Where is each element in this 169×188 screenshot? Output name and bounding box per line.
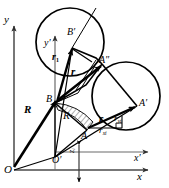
global-axes xyxy=(14,26,148,170)
ray-through-Bprime xyxy=(72,8,96,48)
link-Adoubleprime-to-Aprime xyxy=(102,64,137,106)
vector-R-bold-label: R xyxy=(24,104,31,115)
component-ryi-base: r xyxy=(114,113,118,123)
vector-r1-bold-label: r1 xyxy=(52,52,59,62)
point-B-prime-label: B′ xyxy=(67,27,75,37)
vector-r-lower-bold-label: r xyxy=(99,113,103,124)
point-A-label: A xyxy=(81,131,87,141)
component-rxi-subscript: xi xyxy=(103,130,107,136)
vector-r-upper-bold-label: r xyxy=(71,66,75,77)
offset-zi-base: z xyxy=(67,150,76,153)
x-axis-label: x xyxy=(137,171,142,182)
vector-R-bold-arrow xyxy=(14,101,56,167)
component-ryi-subscript: yi xyxy=(118,118,122,124)
offset-zi-label: zi xyxy=(68,148,76,153)
x-prime-axis-label: x′ xyxy=(134,153,141,163)
point-B-label: B xyxy=(46,94,52,104)
component-rxi-base: r xyxy=(99,125,103,135)
component-rxi-label: rxi xyxy=(99,126,107,135)
offset-zi-subscript: i xyxy=(71,148,76,149)
point-A-double-prime-label: A″ xyxy=(99,55,109,65)
Oprime-to-Bprime-line xyxy=(55,48,72,157)
vector-r1-subscript: 1 xyxy=(56,57,59,63)
y-axis-label: y xyxy=(4,14,9,25)
diagram-canvas xyxy=(0,0,169,188)
scalar-R-italic-label: R xyxy=(63,110,70,121)
origin-O-label: O xyxy=(4,164,12,175)
component-ryi-label: ryi xyxy=(114,114,122,123)
y-prime-axis-label: y′ xyxy=(44,38,51,48)
vector-diagram-figure: y x y′ x′ O O′ A A′ A″ B B′ R R r1 r r r… xyxy=(0,0,169,188)
point-A-prime-label: A′ xyxy=(139,98,147,108)
origin-O-prime-label: O′ xyxy=(52,155,61,165)
